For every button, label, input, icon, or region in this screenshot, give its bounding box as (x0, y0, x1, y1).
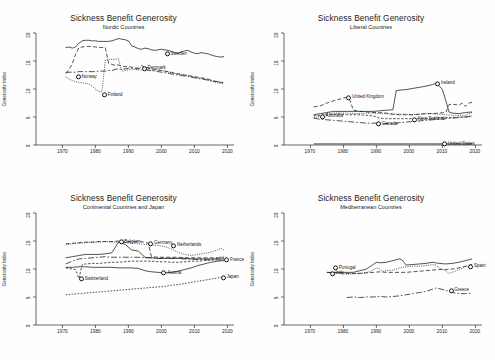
series-label: Italy (330, 271, 344, 276)
panel-subtitle: Nordic Countries (0, 24, 247, 30)
y-tick-label: 20 (26, 213, 31, 227)
marker-circle-icon (161, 271, 166, 276)
series-line (313, 97, 471, 114)
series-label-text: United Kingdom (352, 95, 384, 100)
panel-subtitle: Liberal Countries (248, 24, 495, 30)
series-label: Norway (76, 74, 97, 79)
series-label-text: Austria (167, 270, 181, 275)
y-tick-label: 0 (26, 325, 31, 339)
marker-circle-icon (376, 121, 381, 126)
marker-circle-icon (320, 114, 325, 119)
x-tick-label: 2010 (182, 149, 206, 154)
y-tick-label: 0 (273, 145, 278, 159)
panel-title: Sickness Benefit Generosity (248, 193, 495, 203)
x-tick-label: 2020 (463, 149, 487, 154)
y-tick-label: 15 (26, 61, 31, 75)
series-label-text: Denmark (147, 66, 165, 71)
y-axis-label: Generosity Index (250, 213, 260, 325)
y-tick-label: 5 (26, 297, 31, 311)
series-label: Greece (449, 288, 470, 293)
series-label-text: New Zealand (418, 117, 445, 122)
y-tick-label: 10 (273, 269, 278, 283)
x-tick-label: 1970 (50, 329, 74, 334)
plot-svg (36, 213, 234, 325)
x-tick-label: 2020 (463, 329, 487, 334)
x-tick-label: 1980 (83, 329, 107, 334)
panel-subtitle: Continental Countries and Japan (0, 204, 247, 210)
series-label: France (224, 257, 244, 262)
y-tick-label: 0 (273, 325, 278, 339)
series-label-text: Belgium (124, 239, 140, 244)
plot-svg (284, 213, 482, 325)
series-label: United Kingdom (346, 95, 384, 100)
x-tick-label: 2010 (182, 329, 206, 334)
x-tick-label: 1990 (116, 149, 140, 154)
x-tick-label: 1990 (364, 149, 388, 154)
series-label-text: Japan (227, 275, 239, 280)
series-label-text: France (230, 257, 244, 262)
x-tick-label: 1990 (116, 329, 140, 334)
series-label: Japan (221, 275, 239, 280)
panel-mediterranean: Sickness Benefit Generosity Mediterranea… (248, 180, 495, 360)
series-label-text: Norway (81, 74, 96, 79)
series-label-text: Greece (454, 288, 469, 293)
y-tick-label: 10 (26, 89, 31, 103)
series-label: Portugal (333, 265, 356, 270)
chart-grid: Sickness Benefit Generosity Nordic Count… (0, 0, 495, 360)
series-label: New Zealand (412, 117, 444, 122)
panel-nordic: Sickness Benefit Generosity Nordic Count… (0, 0, 247, 180)
series-label-text: Canada (382, 121, 398, 126)
panel-title: Sickness Benefit Generosity (0, 13, 247, 23)
series-line (66, 261, 224, 273)
panel-title: Sickness Benefit Generosity (0, 193, 247, 203)
x-tick-label: 2010 (430, 329, 454, 334)
marker-circle-icon (142, 66, 147, 71)
marker-circle-icon (468, 264, 473, 269)
y-axis-label: Generosity Index (2, 33, 12, 145)
y-tick-label: 5 (26, 117, 31, 131)
series-label: Austria (161, 270, 181, 275)
y-tick-label: 10 (273, 89, 278, 103)
y-tick-label: 5 (273, 117, 278, 131)
marker-circle-icon (346, 95, 351, 100)
x-tick-label: 2000 (149, 149, 173, 154)
marker-circle-icon (171, 243, 176, 248)
series-label: Ireland (435, 81, 455, 86)
series-label: Denmark (142, 66, 166, 71)
series-label-text: United States (448, 141, 475, 146)
series-line (66, 39, 224, 57)
x-tick-label: 1980 (83, 149, 107, 154)
y-tick-label: 10 (26, 269, 31, 283)
series-label: Germany (148, 241, 172, 246)
y-axis-label: Generosity Index (250, 33, 260, 145)
series-label: Netherlands (171, 243, 201, 248)
y-tick-label: 20 (273, 213, 278, 227)
marker-circle-icon (119, 239, 124, 244)
marker-circle-icon (435, 81, 440, 86)
x-tick-label: 2020 (215, 149, 239, 154)
panel-subtitle: Mediterranean Countries (248, 204, 495, 210)
x-tick-label: 1970 (298, 149, 322, 154)
series-label: Sweden (165, 51, 187, 56)
y-tick-label: 0 (26, 145, 31, 159)
marker-circle-icon (330, 271, 335, 276)
x-tick-label: 1980 (331, 329, 355, 334)
x-tick-label: 2000 (397, 149, 421, 154)
y-axis-label: Generosity Index (2, 213, 12, 325)
marker-circle-icon (412, 117, 417, 122)
x-tick-label: 1990 (364, 329, 388, 334)
plot-area: 05101520197019801990200020102020IrelandU… (284, 33, 482, 145)
plot-area: 05101520197019801990200020102020BelgiumG… (36, 213, 234, 325)
series-label-text: Germany (154, 241, 173, 246)
x-tick-label: 2010 (430, 149, 454, 154)
series-label: Canada (376, 121, 398, 126)
marker-circle-icon (102, 93, 107, 98)
series-label-text: Netherlands (177, 243, 201, 248)
series-label: Switzerland (79, 276, 108, 281)
x-tick-label: 1980 (331, 149, 355, 154)
plot-svg (284, 33, 482, 145)
series-label-text: Finland (108, 93, 123, 98)
series-label: Spain (468, 264, 485, 269)
x-tick-label: 2020 (215, 329, 239, 334)
x-tick-label: 2000 (397, 329, 421, 334)
